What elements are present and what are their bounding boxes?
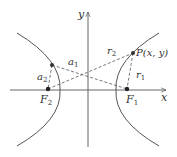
- focus-F2-label: F2: [40, 94, 52, 107]
- F2-base: F: [40, 93, 48, 106]
- point-left-vertex-ref: [50, 63, 54, 67]
- point-P-label: P(x, y): [136, 48, 168, 58]
- diagram-canvas: [0, 0, 177, 157]
- a1-label: a1: [68, 57, 78, 69]
- focus-F1-label: F1: [126, 94, 138, 107]
- focus-F2: [46, 87, 50, 91]
- hyperbola-left-branch: [17, 33, 60, 146]
- segment-a1: [52, 65, 127, 89]
- r1-sub: 1: [141, 74, 145, 82]
- y-axis-label: y: [78, 9, 84, 20]
- r2-label: r2: [107, 46, 116, 58]
- a2-sub: 2: [43, 76, 47, 84]
- segment-r2: [48, 53, 133, 89]
- point-P: [131, 51, 135, 55]
- F1-sub: 1: [134, 99, 138, 107]
- a1-sub: 1: [74, 61, 78, 69]
- hyperbola-diagram: y x P(x, y) F1 F2 r1 r2 a1 a2: [0, 0, 177, 157]
- segment-a2: [48, 65, 52, 89]
- x-axis-label: x: [161, 92, 167, 103]
- a2-label: a2: [37, 72, 47, 84]
- focus-F1: [125, 87, 129, 91]
- F2-sub: 2: [48, 99, 52, 107]
- r2-sub: 2: [112, 50, 116, 58]
- r1-label: r1: [136, 70, 145, 82]
- F1-base: F: [126, 93, 134, 106]
